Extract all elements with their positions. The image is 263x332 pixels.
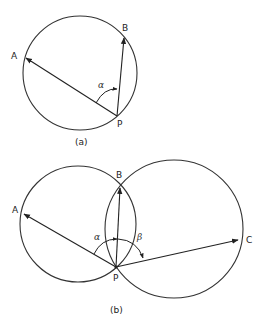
label-b: B — [122, 23, 128, 33]
figure-a: A B P α (a) — [11, 16, 137, 147]
angle-alpha-arc — [96, 89, 117, 103]
label-a: A — [11, 51, 18, 61]
label-b: B — [116, 170, 122, 180]
vector-angle-diagram: A B P α (a) A B C P α β (b) — [0, 0, 263, 332]
figure-b: A B C P α β (b) — [12, 160, 252, 315]
label-p: P — [113, 273, 119, 283]
label-c: C — [246, 235, 252, 245]
vector-pa — [24, 214, 116, 267]
label-alpha: α — [94, 232, 100, 242]
point-p — [114, 265, 117, 268]
circle-b-right — [105, 160, 243, 298]
label-beta: β — [136, 232, 142, 242]
label-p: P — [117, 119, 123, 129]
caption-a: (a) — [75, 137, 88, 147]
circle-a — [23, 16, 137, 130]
vector-pb — [116, 188, 120, 267]
label-a: A — [12, 205, 19, 215]
vector-pb — [117, 38, 124, 116]
caption-b: (b) — [110, 305, 123, 315]
label-alpha: α — [98, 80, 104, 90]
